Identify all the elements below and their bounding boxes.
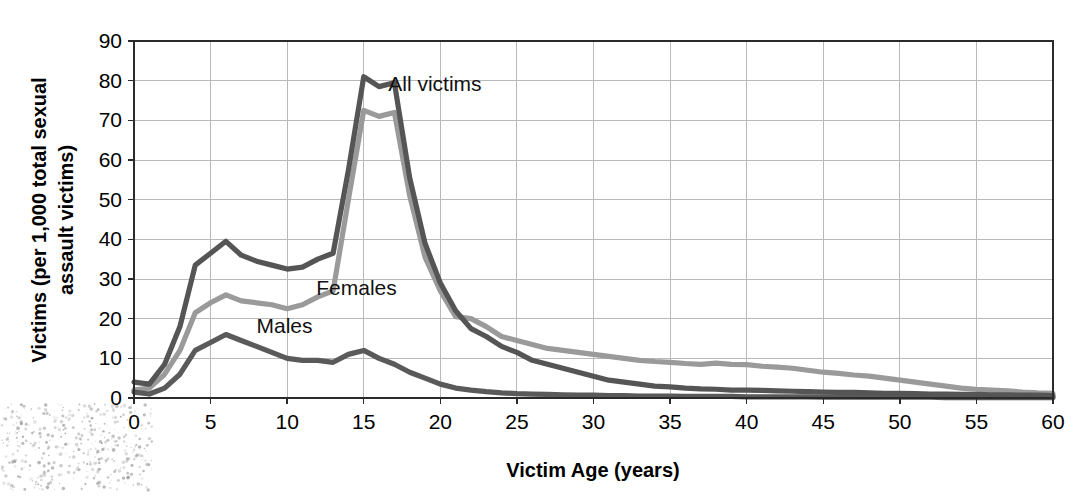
noise-speckle: [115, 469, 117, 471]
noise-speckle: [3, 442, 5, 444]
noise-speckle: [112, 448, 116, 452]
noise-speckle: [72, 455, 76, 459]
noise-speckle: [52, 461, 55, 464]
noise-speckle: [93, 477, 95, 479]
noise-speckle: [90, 428, 93, 431]
noise-speckle: [99, 427, 101, 429]
y-tick-label: 20: [99, 307, 122, 330]
noise-speckle: [123, 404, 127, 408]
noise-speckle: [39, 430, 40, 431]
noise-speckle: [44, 403, 47, 406]
noise-speckle: [103, 447, 106, 450]
noise-speckle: [144, 448, 145, 449]
noise-speckle: [150, 408, 152, 410]
noise-speckle: [17, 441, 18, 442]
noise-speckle: [20, 403, 23, 406]
noise-speckle: [37, 461, 41, 465]
noise-speckle: [34, 487, 36, 489]
noise-speckle: [37, 483, 39, 485]
noise-speckle: [91, 467, 94, 470]
noise-speckle: [1, 424, 3, 426]
noise-speckle: [150, 415, 152, 417]
noise-speckle: [10, 488, 12, 490]
noise-speckle: [89, 424, 92, 427]
noise-speckle: [122, 460, 126, 464]
noise-speckle: [62, 425, 63, 426]
noise-speckle: [8, 441, 9, 442]
noise-speckle: [56, 453, 57, 454]
noise-speckle: [50, 475, 53, 478]
noise-speckle: [78, 409, 80, 411]
noise-speckle: [67, 471, 70, 474]
noise-speckle: [134, 413, 136, 415]
noise-speckle: [16, 422, 17, 423]
noise-speckle: [45, 441, 48, 444]
noise-speckle: [126, 476, 129, 479]
noise-speckle: [69, 456, 71, 458]
noise-speckle: [120, 405, 123, 408]
noise-speckle: [138, 445, 141, 448]
noise-speckle: [21, 459, 24, 462]
noise-speckle: [89, 461, 91, 463]
noise-speckle: [105, 449, 106, 450]
noise-speckle: [148, 437, 151, 440]
noise-speckle: [139, 474, 141, 476]
noise-speckle: [29, 464, 32, 467]
noise-speckle: [59, 483, 60, 484]
noise-speckle: [75, 436, 78, 439]
y-tick-label: 40: [99, 227, 122, 250]
noise-speckle: [47, 462, 50, 465]
noise-speckle: [126, 419, 128, 421]
noise-speckle: [151, 468, 152, 469]
noise-speckle: [106, 410, 108, 412]
noise-speckle: [145, 486, 147, 488]
noise-speckle: [107, 424, 108, 425]
noise-speckle: [100, 452, 101, 453]
noise-speckle: [95, 441, 96, 442]
noise-speckle: [86, 476, 89, 479]
noise-speckle: [56, 417, 57, 418]
x-tick-label: 60: [1041, 410, 1064, 433]
noise-speckle: [43, 427, 46, 430]
noise-speckle: [133, 458, 135, 460]
noise-speckle: [31, 408, 32, 409]
noise-speckle: [124, 449, 126, 451]
series-label-females: Females: [316, 276, 397, 299]
noise-speckle: [73, 477, 74, 478]
noise-speckle: [125, 452, 128, 455]
noise-speckle: [80, 487, 82, 489]
noise-speckle: [151, 460, 152, 461]
noise-speckle: [83, 404, 87, 408]
series-label-all-victims: All victims: [388, 72, 481, 95]
noise-speckle: [122, 413, 125, 416]
noise-speckle: [33, 444, 36, 447]
noise-speckle: [20, 414, 21, 415]
noise-speckle: [77, 432, 80, 435]
noise-speckle: [55, 445, 58, 448]
noise-speckle: [24, 408, 25, 409]
noise-speckle: [89, 407, 92, 410]
noise-speckle: [11, 410, 13, 412]
noise-speckle: [7, 432, 8, 433]
noise-speckle: [110, 487, 112, 489]
noise-speckle: [43, 464, 46, 467]
noise-speckle: [24, 432, 25, 433]
noise-speckle: [42, 412, 45, 415]
y-axis-title-line2: assault victims): [55, 145, 77, 295]
noise-speckle: [37, 477, 39, 479]
noise-speckle: [66, 453, 67, 454]
noise-speckle: [12, 424, 15, 427]
noise-speckle: [32, 434, 33, 435]
noise-speckle: [12, 489, 14, 491]
noise-speckle: [122, 476, 125, 479]
noise-speckle: [110, 474, 112, 476]
noise-speckle: [57, 404, 58, 405]
noise-speckle: [99, 468, 101, 470]
chart-figure: 051015202530354045505560 010203040506070…: [0, 0, 1090, 498]
noise-speckle: [18, 431, 20, 433]
noise-speckle: [114, 429, 115, 430]
noise-speckle: [15, 433, 16, 434]
noise-speckle: [61, 414, 64, 417]
noise-speckle: [117, 479, 120, 482]
noise-speckle: [58, 474, 61, 477]
